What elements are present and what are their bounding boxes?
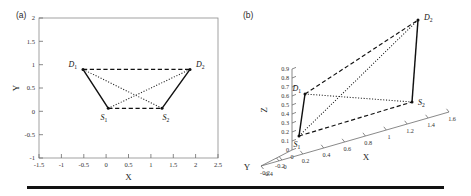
y-tick-label: 2	[32, 14, 35, 21]
y-tick-label: 0	[32, 108, 36, 115]
x-axis-a: -1.5 -1 -0.5 0 0.5 1 1.5 2 2.5	[34, 154, 223, 168]
label-d1-a: D1	[67, 60, 77, 70]
z-tick-label: 0.6	[281, 92, 289, 99]
edge-d1-s1	[83, 69, 108, 108]
x-tick-label: -0.5	[79, 161, 90, 168]
label-d2-a: D2	[195, 60, 205, 70]
y-tick-label: 1.5	[27, 38, 36, 45]
edge-d1-d2	[305, 20, 418, 94]
x-tick-label: 0	[104, 161, 108, 168]
z-axis-label-b: Z	[259, 107, 269, 113]
x-tick-label: 1	[149, 161, 152, 168]
node-d2	[189, 68, 192, 71]
y-axis-a: 2 1.5 1 0.5 0 -0.5 -1	[25, 14, 43, 161]
x-tick-label: 0	[283, 163, 286, 170]
x-tick-label: -1.5	[34, 161, 45, 168]
x-tick-label: 0.4	[323, 151, 331, 158]
panel-b: (b) 0 0.1 0.2 0.3 0.4 0.	[235, 0, 471, 196]
panel-a-tag: (a)	[16, 10, 26, 20]
z-tick-label: 0.3	[281, 119, 289, 126]
panel-a: (a) 2 1.5 1 0.5 0 -0.5 -1	[0, 0, 236, 196]
x-tick-label: 2.5	[214, 161, 223, 168]
node-s1	[298, 135, 301, 138]
y-tick-label: 0.5	[27, 84, 36, 91]
z-tick-label: 0.7	[281, 83, 289, 90]
node-d2	[417, 19, 420, 22]
node-d1	[82, 68, 85, 71]
edge-d1-s2	[305, 94, 412, 102]
label-d1-b: D1	[291, 84, 301, 94]
x-axis-label-a: X	[125, 172, 132, 182]
panel-a-plot: 2 1.5 1 0.5 0 -0.5 -1 -1.5 -1	[0, 0, 236, 196]
edge-d1-s1	[299, 94, 305, 136]
z-tick-label: 0.9	[281, 65, 289, 72]
node-s1	[107, 107, 110, 110]
label-d2-b: D2	[423, 13, 433, 23]
x-tick-label: 0.5	[124, 161, 133, 168]
x-tick-label: 1.4	[427, 121, 435, 128]
z-axis-b: 0 0.1 0.2 0.3 0.4 0.5 0.6 0.7 0.8 0.9 Z	[259, 65, 296, 153]
z-tick-label: 0.1	[281, 137, 289, 144]
x-tick-label: 1.5	[169, 161, 178, 168]
edge-d2-s1	[108, 69, 190, 108]
y-tick-label: 1	[32, 61, 35, 68]
x-tick-label: -0.2	[260, 169, 270, 176]
y-tick-label: -0.5	[25, 131, 36, 138]
label-s2-b: S2	[418, 98, 425, 108]
z-tick-label: 0.8	[281, 74, 289, 81]
x-axis-label-b: X	[363, 152, 370, 162]
x-tick-label: 0.6	[343, 145, 351, 152]
z-tick-label: 0.5	[281, 101, 289, 108]
z-tick-label: 0.4	[281, 110, 289, 117]
label-s1-b: S1	[294, 140, 301, 150]
node-s2	[411, 101, 414, 104]
x-tick-label: 1	[387, 133, 390, 140]
x-tick-label: 1.2	[406, 127, 414, 134]
plot-box-a	[39, 18, 218, 158]
edge-d2-s2	[162, 69, 190, 108]
y-axis-label-b: Y	[244, 162, 251, 172]
node-d1	[304, 93, 307, 96]
edge-s1-s2	[299, 102, 412, 136]
x-tick-label: 2	[194, 161, 197, 168]
x-tick-label: -1	[59, 161, 65, 168]
panel-b-plot: 0 0.1 0.2 0.3 0.4 0.5 0.6 0.7 0.8 0.9 Z …	[235, 0, 471, 196]
x-tick-label: 1.6	[448, 115, 456, 122]
label-s2-a: S2	[163, 113, 170, 123]
x-tick-label: 0.8	[364, 139, 372, 146]
z-tick-label: 0.2	[281, 128, 289, 135]
figure-container: (a) 2 1.5 1 0.5 0 -0.5 -1	[0, 0, 471, 196]
x-tick-label: 0.2	[302, 157, 310, 164]
x-axis-b: -0.2 0 0.2 0.4 0.6 0.8 1 1.2 1.4 1.6 X	[260, 109, 456, 176]
y-axis-label-a: Y	[11, 84, 21, 91]
horizontal-rule	[27, 186, 444, 189]
label-s1-a: S1	[101, 113, 108, 123]
panel-b-tag: (b)	[243, 10, 253, 20]
geometry-a	[82, 68, 192, 110]
edge-d2-s2	[412, 20, 418, 102]
geometry-b	[298, 19, 420, 138]
node-s2	[161, 107, 164, 110]
